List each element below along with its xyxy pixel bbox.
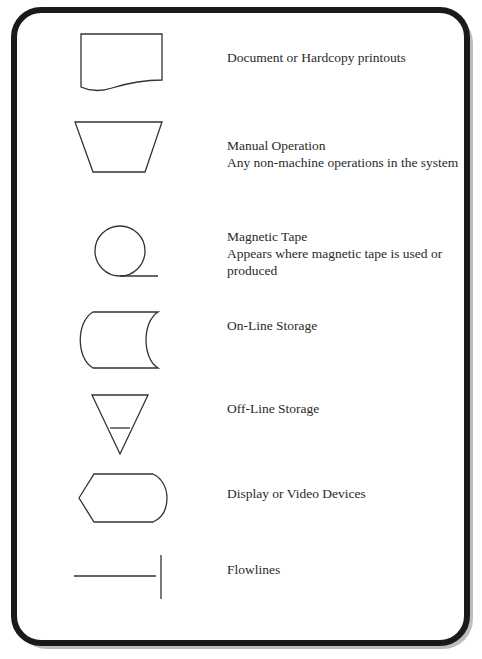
symbol-label-offline-storage: Off-Line Storage bbox=[227, 400, 447, 417]
label-line: produced bbox=[227, 262, 447, 279]
label-line: Manual Operation bbox=[227, 137, 447, 154]
flowlines-icon bbox=[74, 555, 161, 599]
display-icon bbox=[79, 474, 167, 522]
offline-storage-icon bbox=[92, 395, 148, 454]
symbol-label-magnetic-tape: Magnetic Tape Appears where magnetic tap… bbox=[227, 228, 447, 279]
magnetic-tape-icon bbox=[95, 226, 158, 276]
label-line: Document or Hardcopy printouts bbox=[227, 49, 447, 66]
label-line: Magnetic Tape bbox=[227, 228, 447, 245]
symbol-label-online-storage: On-Line Storage bbox=[227, 317, 447, 334]
label-line: Appears where magnetic tape is used or bbox=[227, 245, 467, 262]
label-line: Display or Video Devices bbox=[227, 485, 447, 502]
manual-operation-icon bbox=[75, 122, 162, 172]
symbol-label-document: Document or Hardcopy printouts bbox=[227, 49, 447, 66]
symbol-label-flowlines: Flowlines bbox=[227, 561, 447, 578]
label-line: On-Line Storage bbox=[227, 317, 447, 334]
symbol-label-manual-operation: Manual Operation Any non-machine operati… bbox=[227, 137, 447, 171]
label-line: Flowlines bbox=[227, 561, 447, 578]
label-line: Any non-machine operations in the system bbox=[227, 154, 482, 171]
document-icon bbox=[81, 34, 162, 91]
label-line: Off-Line Storage bbox=[227, 400, 447, 417]
online-storage-icon bbox=[80, 312, 158, 368]
symbol-label-display: Display or Video Devices bbox=[227, 485, 447, 502]
